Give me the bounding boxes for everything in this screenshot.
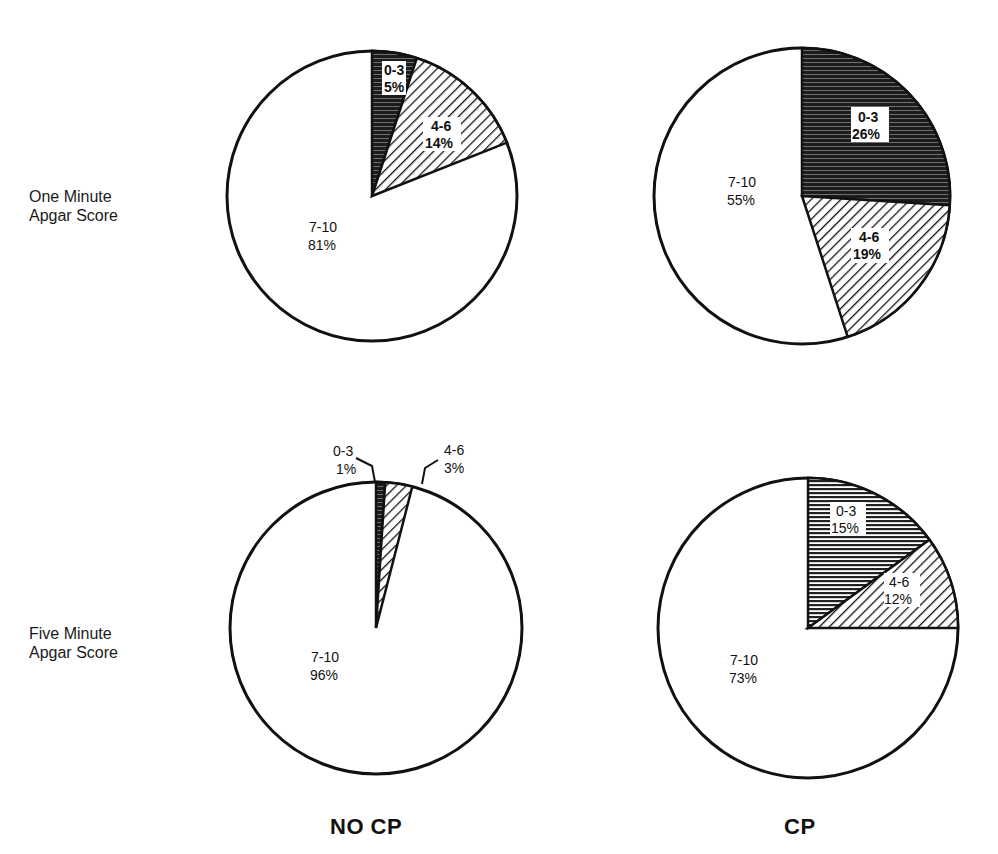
label-pct: 96% — [310, 667, 338, 683]
leader-line-0-3 — [356, 458, 375, 482]
label-range: 0-3 — [384, 62, 404, 78]
pie-cp-five-minute: 0-3 15% 4-6 12% 7-10 73% — [658, 478, 958, 778]
pie-nocp-one-minute: 0-3 5% 4-6 14% 7-10 81% — [227, 51, 517, 341]
label-range: 0-3 — [333, 443, 353, 459]
label-pct: 15% — [831, 520, 859, 536]
label-pct: 1% — [336, 461, 356, 477]
label-range: 4-6 — [889, 574, 909, 590]
pie-cp-one-minute: 0-3 26% 4-6 19% 7-10 55% — [654, 48, 950, 344]
label-pct: 19% — [853, 246, 882, 262]
label-pct: 26% — [852, 126, 881, 142]
label-pct: 55% — [727, 192, 755, 208]
label-range: 0-3 — [836, 503, 856, 519]
label-pct: 73% — [729, 670, 757, 686]
label-range: 4-6 — [431, 118, 451, 134]
label-pct: 14% — [425, 135, 454, 151]
label-pct: 12% — [884, 591, 912, 607]
label-pct: 81% — [308, 237, 336, 253]
label-range: 7-10 — [728, 174, 756, 190]
pie-nocp-five-minute: 0-3 1% 4-6 3% 7-10 96% — [230, 442, 522, 774]
label-range: 7-10 — [309, 219, 337, 235]
pie-charts-canvas: 0-3 5% 4-6 14% 7-10 81% 0-3 26% 4-6 19% … — [0, 0, 998, 854]
label-range: 7-10 — [311, 649, 339, 665]
label-pct: 5% — [384, 79, 405, 95]
label-range: 7-10 — [730, 652, 758, 668]
label-range: 4-6 — [859, 229, 879, 245]
leader-line-4-6 — [422, 460, 438, 484]
label-range: 4-6 — [444, 442, 464, 458]
label-range: 0-3 — [858, 109, 878, 125]
label-pct: 3% — [444, 460, 464, 476]
